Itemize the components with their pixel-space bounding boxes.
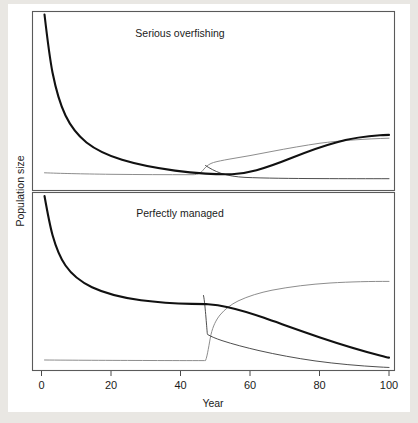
figure-container: Serious overfishing Perfectly managed 0 … (0, 0, 418, 423)
x-tick-label-0: 0 (38, 379, 44, 391)
x-axis-title: Year (202, 397, 224, 409)
series-bottom-thick (45, 196, 390, 358)
x-tick-label-100: 100 (380, 379, 398, 391)
series-bottom-thin-dark (204, 296, 390, 368)
chart-svg: Serious overfishing Perfectly managed 0 … (0, 0, 418, 423)
x-tick-label-20: 20 (105, 379, 117, 391)
top-panel-series-group (45, 15, 390, 179)
bottom-panel-title: Perfectly managed (136, 207, 224, 219)
x-tick-label-80: 80 (313, 379, 325, 391)
top-panel-title: Serious overfishing (135, 27, 224, 39)
bottom-panel-series-group (45, 196, 390, 367)
x-axis-tick-labels: 0 20 40 60 80 100 (38, 379, 398, 391)
y-axis-title: Population size (14, 155, 26, 226)
series-top-thin-dark (206, 166, 390, 179)
x-axis-ticks (42, 371, 390, 376)
x-tick-label-60: 60 (244, 379, 256, 391)
x-tick-label-40: 40 (174, 379, 186, 391)
series-top-grey (45, 138, 390, 175)
series-bottom-grey (45, 281, 390, 360)
